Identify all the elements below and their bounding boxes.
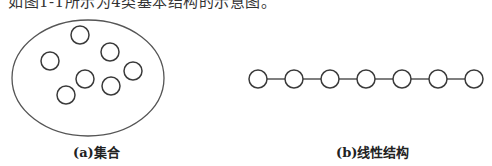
set-element-node [76, 70, 94, 88]
linear-node [357, 70, 375, 88]
set-element-node [41, 52, 59, 70]
linear-node [393, 70, 411, 88]
set-element-node [102, 77, 120, 95]
set-element-node [57, 86, 75, 104]
linear-node [285, 70, 303, 88]
linear-node [321, 70, 339, 88]
set-element-node [71, 26, 89, 44]
set-diagram [12, 20, 164, 136]
linear-structure-label: (b)线性结构 [336, 142, 409, 161]
linear-node [249, 70, 267, 88]
linear-node [465, 70, 483, 88]
linear-structure-diagram [249, 70, 483, 88]
linear-node [429, 70, 447, 88]
set-diagram-label: (a)集合 [73, 142, 120, 161]
set-element-node [124, 62, 142, 80]
set-element-node [101, 43, 119, 61]
